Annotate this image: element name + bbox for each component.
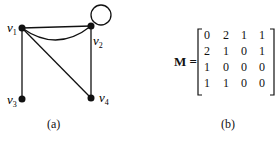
matrix-cell: 0 (238, 44, 250, 59)
matrix-cell: 2 (220, 28, 232, 43)
label-v1: v1 (7, 20, 17, 37)
caption-a: (a) (47, 117, 60, 132)
vertex-v3 (19, 96, 26, 103)
vertex-v4 (88, 95, 95, 102)
matrix-cell: 0 (256, 60, 268, 75)
matrix-cell: 1 (256, 28, 268, 43)
caption-b: (b) (221, 117, 235, 132)
matrix-cell: 1 (220, 76, 232, 91)
label-v2: v2 (93, 33, 103, 50)
matrix-cell: 1 (201, 60, 213, 75)
label-v3: v3 (7, 92, 17, 109)
edge-v1-v4 (22, 28, 91, 98)
vertex-v2 (88, 23, 95, 30)
matrix-cell: 2 (201, 44, 213, 59)
matrix-cell: 1 (201, 76, 213, 91)
label-v4: v4 (99, 90, 109, 107)
matrix-cell: 0 (238, 76, 250, 91)
matrix-cell: 0 (256, 76, 268, 91)
matrix-cell: 0 (238, 60, 250, 75)
matrix-cell: 0 (201, 28, 213, 43)
matrix-cell: 1 (256, 44, 268, 59)
vertex-v1 (19, 25, 26, 32)
matrix-cell: 1 (220, 44, 232, 59)
matrix-label: M = (174, 54, 197, 70)
matrix-cell: 0 (220, 60, 232, 75)
matrix-cell: 1 (238, 28, 250, 43)
edge-v1-v2 (22, 26, 91, 28)
loop-v2 (91, 5, 111, 25)
